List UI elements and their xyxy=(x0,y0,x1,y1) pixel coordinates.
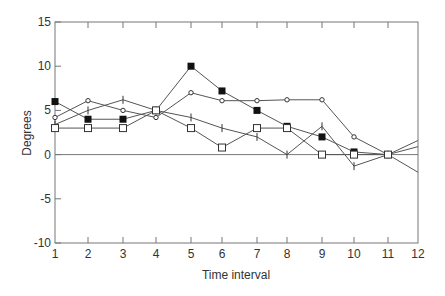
series-group xyxy=(52,63,419,173)
open-circle-marker xyxy=(352,135,356,139)
series-line xyxy=(55,93,418,173)
series-line xyxy=(55,66,388,154)
open-square-marker xyxy=(284,125,291,132)
filled-square-marker xyxy=(120,116,127,123)
x-tick-label: 9 xyxy=(319,247,326,261)
x-tick-label: 2 xyxy=(85,247,92,261)
x-tick-label: 10 xyxy=(347,247,361,261)
open-square-marker xyxy=(351,151,358,158)
filled-square-marker xyxy=(219,87,226,94)
open-square-marker xyxy=(254,125,261,132)
x-tick-label: 12 xyxy=(411,247,425,261)
filled-square-marker xyxy=(85,116,92,123)
series-line xyxy=(55,110,418,154)
open-circle-marker xyxy=(255,98,259,102)
series-line xyxy=(55,100,418,166)
x-tick-label: 7 xyxy=(254,247,261,261)
y-tick-label: 5 xyxy=(44,103,51,117)
open-circle-marker xyxy=(320,98,324,102)
open-circle-marker xyxy=(53,115,57,119)
open-square-marker xyxy=(188,125,195,132)
plot-frame xyxy=(55,22,418,243)
filled-square-marker xyxy=(52,98,59,105)
x-tick-label: 1 xyxy=(52,247,59,261)
filled-square-marker xyxy=(254,107,261,114)
open-square-marker xyxy=(319,151,326,158)
x-tick-label: 5 xyxy=(188,247,195,261)
x-tick-label: 8 xyxy=(284,247,291,261)
line-chart: 151050-5-10 123456789101112 Time interva… xyxy=(0,0,445,296)
y-tick-label: -10 xyxy=(34,236,52,250)
y-axis-label: Degrees xyxy=(20,110,34,155)
open-square-marker xyxy=(52,125,59,132)
x-axis: 123456789101112 xyxy=(52,22,425,261)
filled-square-marker xyxy=(188,63,195,70)
open-circle-marker xyxy=(285,98,289,102)
y-tick-label: 0 xyxy=(44,148,51,162)
open-circle-marker xyxy=(220,98,224,102)
y-tick-label: 10 xyxy=(38,59,52,73)
open-square-marker xyxy=(120,125,127,132)
open-circle-marker xyxy=(121,108,125,112)
x-tick-label: 3 xyxy=(120,247,127,261)
y-tick-label: 15 xyxy=(38,15,52,29)
open-circle-marker xyxy=(189,91,193,95)
open-square-marker xyxy=(153,107,160,114)
y-tick-label: -5 xyxy=(40,192,51,206)
plot-border xyxy=(55,22,418,243)
open-square-marker xyxy=(85,125,92,132)
open-square-marker xyxy=(385,151,392,158)
y-axis: 151050-5-10 xyxy=(34,15,61,250)
x-tick-label: 6 xyxy=(219,247,226,261)
open-circle-marker xyxy=(86,98,90,102)
filled-square-marker xyxy=(319,133,326,140)
x-tick-label: 11 xyxy=(382,247,395,261)
open-square-marker xyxy=(219,144,226,151)
series-open-square xyxy=(52,107,419,158)
open-circle-marker xyxy=(154,115,158,119)
x-axis-label: Time interval xyxy=(202,268,270,282)
x-tick-label: 4 xyxy=(153,247,160,261)
